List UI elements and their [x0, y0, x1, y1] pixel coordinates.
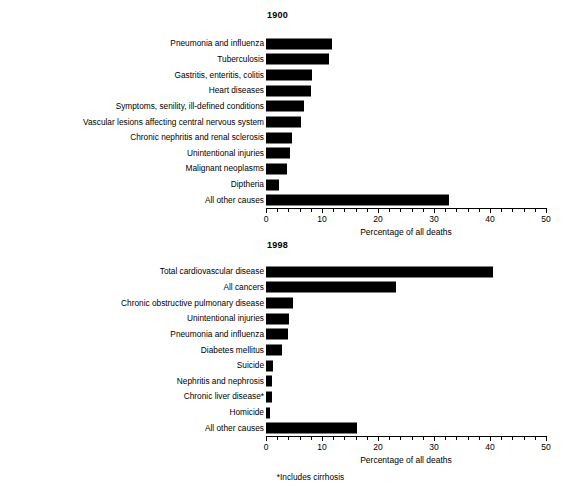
- category-label: Pneumonia and influenza: [4, 330, 264, 339]
- bar-row: Symptoms, senility, ill-defined conditio…: [0, 99, 579, 115]
- bar-track: [266, 389, 546, 405]
- x-axis-label-1900: Percentage of all deaths: [266, 227, 546, 237]
- x-axis-label-1998: Percentage of all deaths: [266, 455, 546, 465]
- x-tick-minor: [389, 208, 390, 212]
- bar-row: Total cardiovascular disease: [0, 264, 579, 280]
- x-axis-line: [266, 436, 546, 437]
- category-label: Chronic obstructive pulmonary disease: [4, 299, 264, 308]
- category-label: Chronic nephritis and renal sclerosis: [4, 133, 264, 142]
- category-label: Diptheria: [4, 180, 264, 189]
- bar-track: [266, 420, 546, 436]
- category-label: Total cardiovascular disease: [4, 267, 264, 276]
- x-tick-major: [378, 436, 379, 441]
- category-label: Unintentional injuries: [4, 149, 264, 158]
- mortality-comparison-figure: 1900 Pneumonia and influenzaTuberculosis…: [0, 0, 579, 495]
- x-tick-minor: [512, 208, 513, 212]
- x-tick-minor: [524, 208, 525, 212]
- x-tick-minor: [468, 208, 469, 212]
- x-tick-minor: [311, 208, 312, 212]
- bar-row: Suicide: [0, 358, 579, 374]
- bar-row: Homicide: [0, 405, 579, 421]
- bar-row: All cancers: [0, 280, 579, 296]
- bar-track: [266, 295, 546, 311]
- bar-row: Unintentional injuries: [0, 311, 579, 327]
- x-tick-minor: [400, 208, 401, 212]
- x-tick-minor: [535, 208, 536, 212]
- bar-track: [266, 145, 546, 161]
- x-tick-major: [434, 436, 435, 441]
- bar: [266, 85, 311, 96]
- category-label: Symptoms, senility, ill-defined conditio…: [4, 102, 264, 111]
- x-tick-minor: [344, 436, 345, 440]
- bar-track: [266, 327, 546, 343]
- bar-row: Chronic nephritis and renal sclerosis: [0, 130, 579, 146]
- x-tick-minor: [456, 436, 457, 440]
- bar-track: [266, 342, 546, 358]
- x-tick-minor: [501, 436, 502, 440]
- bar: [266, 376, 272, 387]
- x-tick-minor: [356, 208, 357, 212]
- category-label: Tuberculosis: [4, 55, 264, 64]
- x-tick-minor: [479, 208, 480, 212]
- x-tick-minor: [524, 436, 525, 440]
- x-tick-major: [490, 208, 491, 213]
- category-label: All cancers: [4, 283, 264, 292]
- bar-track: [266, 161, 546, 177]
- bar-row: Heart diseases: [0, 83, 579, 99]
- x-tick-major: [266, 436, 267, 441]
- bar: [266, 407, 270, 418]
- bar-row: Chronic obstructive pulmonary disease: [0, 295, 579, 311]
- category-label: Suicide: [4, 361, 264, 370]
- x-tick-major: [378, 208, 379, 213]
- x-tick-minor: [344, 208, 345, 212]
- category-label: Unintentional injuries: [4, 314, 264, 323]
- bar-row: Malignant neoplasms: [0, 161, 579, 177]
- bar: [266, 117, 301, 128]
- x-tick-minor: [288, 208, 289, 212]
- bar: [266, 38, 332, 49]
- x-tick-minor: [333, 208, 334, 212]
- bar: [266, 423, 357, 434]
- bar-row: Gastritis, enteritis, colitis: [0, 67, 579, 83]
- bar: [266, 101, 304, 112]
- bar-row: Vascular lesions affecting central nervo…: [0, 114, 579, 130]
- bar: [266, 329, 288, 340]
- x-tick-label: 50: [531, 442, 561, 452]
- bar-track: [266, 99, 546, 115]
- x-tick-label: 40: [475, 214, 505, 224]
- bar-row: Diabetes mellitus: [0, 342, 579, 358]
- bar-track: [266, 130, 546, 146]
- x-tick-minor: [300, 436, 301, 440]
- bar: [266, 70, 312, 81]
- category-label: Chronic liver disease*: [4, 392, 264, 401]
- category-label: Homicide: [4, 408, 264, 417]
- bar: [266, 266, 493, 277]
- category-label: All other causes: [4, 424, 264, 433]
- x-tick-minor: [423, 436, 424, 440]
- x-tick-minor: [456, 208, 457, 212]
- x-tick-minor: [400, 436, 401, 440]
- x-tick-minor: [445, 436, 446, 440]
- category-label: Malignant neoplasms: [4, 164, 264, 173]
- x-tick-minor: [277, 436, 278, 440]
- x-tick-major: [266, 208, 267, 213]
- x-tick-major: [546, 436, 547, 441]
- bar: [266, 345, 282, 356]
- bar-track: [266, 177, 546, 193]
- bar-track: [266, 358, 546, 374]
- plot-area-1998: Total cardiovascular diseaseAll cancersC…: [0, 264, 579, 436]
- bar-track: [266, 192, 546, 208]
- bar-row: Pneumonia and influenza: [0, 36, 579, 52]
- bar-track: [266, 67, 546, 83]
- x-tick-minor: [479, 436, 480, 440]
- x-tick-minor: [367, 208, 368, 212]
- figure-footnote: *Includes cirrhosis: [0, 472, 579, 482]
- x-tick-label: 30: [419, 442, 449, 452]
- x-tick-minor: [311, 436, 312, 440]
- category-label: Gastritis, enteritis, colitis: [4, 71, 264, 80]
- bar: [266, 54, 329, 65]
- x-tick-minor: [423, 208, 424, 212]
- chart-title-1900: 1900: [0, 10, 555, 20]
- x-tick-label: 40: [475, 442, 505, 452]
- bar-rows-1998: Total cardiovascular diseaseAll cancersC…: [0, 264, 579, 436]
